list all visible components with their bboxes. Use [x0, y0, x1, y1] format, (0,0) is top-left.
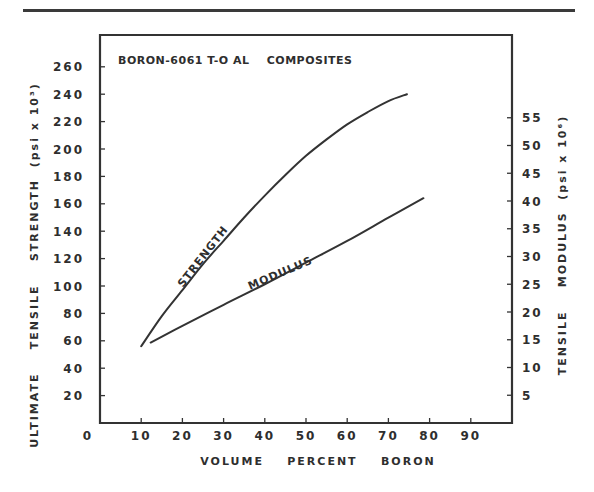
x-tick-label: 80 — [419, 429, 440, 443]
y-right-tick-label: 55 — [522, 111, 543, 125]
chart-title: BORON-6061 T-O AL COMPOSITES — [118, 54, 353, 67]
chart: 1020304050607080900 20406080100120140160… — [0, 0, 594, 492]
x-tick-label: 30 — [213, 429, 234, 443]
origin-label: 0 — [83, 429, 93, 443]
y-right-tick-label: 10 — [522, 361, 543, 375]
modulus-curve-label: MODULUS — [246, 254, 314, 293]
y-left-tick-label: 100 — [53, 280, 84, 294]
x-tick-label: 20 — [172, 429, 193, 443]
x-tick-label: 40 — [254, 429, 275, 443]
y-right-tick-label: 25 — [522, 278, 543, 292]
y-axis-right-title: TENSILE MODULUS (psi x 10⁶) — [556, 115, 569, 376]
y-right-tick-label: 30 — [522, 250, 543, 264]
y-left-tick-label: 40 — [63, 362, 84, 376]
plot-frame — [100, 35, 512, 423]
y-left-tick-label: 120 — [53, 252, 84, 266]
x-tick-label: 60 — [337, 429, 358, 443]
y-right-tick-label: 50 — [522, 139, 543, 153]
y-left-tick-label: 200 — [53, 143, 84, 157]
x-tick-label: 10 — [131, 429, 152, 443]
x-tick-label: 90 — [460, 429, 481, 443]
y-left-tick-label: 260 — [53, 60, 84, 74]
strength-curve-label: STRENGTH — [175, 223, 231, 289]
x-tick-label: 70 — [378, 429, 399, 443]
y-axis-left: 20406080100120140160180200220240260 — [53, 60, 105, 403]
y-right-tick-label: 5 — [522, 389, 532, 403]
y-left-tick-label: 60 — [63, 334, 84, 348]
y-left-tick-label: 160 — [53, 197, 84, 211]
y-right-tick-label: 15 — [522, 333, 543, 347]
x-axis-title: VOLUME PERCENT BORON — [200, 455, 435, 468]
y-right-tick-label: 45 — [522, 167, 543, 181]
x-tick-label: 50 — [296, 429, 317, 443]
y-left-tick-label: 180 — [53, 170, 84, 184]
y-right-tick-label: 40 — [522, 195, 543, 209]
y-right-tick-label: 35 — [522, 222, 543, 236]
y-right-tick-label: 20 — [522, 306, 543, 320]
y-left-tick-label: 80 — [63, 307, 84, 321]
x-axis: 1020304050607080900 — [83, 418, 481, 443]
strength-curve — [141, 94, 407, 346]
y-left-tick-label: 140 — [53, 225, 84, 239]
y-axis-left-title: ULTIMATE TENSILE STRENGTH (psi x 10³) — [28, 82, 41, 448]
data-series — [141, 94, 423, 346]
y-left-tick-label: 20 — [63, 389, 84, 403]
y-left-tick-label: 240 — [53, 88, 84, 102]
y-left-tick-label: 220 — [53, 115, 84, 129]
